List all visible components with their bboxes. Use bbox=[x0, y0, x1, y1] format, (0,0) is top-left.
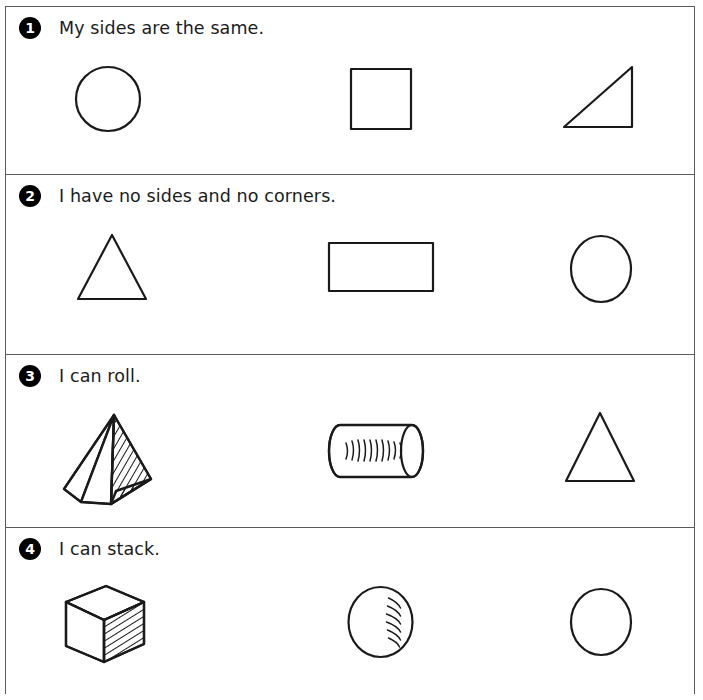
prompt-line-4: 4 I can stack. bbox=[19, 536, 160, 562]
shape-choice-2-3[interactable] bbox=[501, 219, 701, 354]
prompt-line-1: 1 My sides are the same. bbox=[19, 15, 264, 41]
pyramid-icon bbox=[54, 407, 164, 512]
shape-choice-3-3[interactable] bbox=[501, 399, 701, 527]
prompt-line-2: 2 I have no sides and no corners. bbox=[19, 183, 336, 209]
question-row-2[interactable]: 2 I have no sides and no corners. bbox=[6, 174, 694, 354]
shape-choices-2 bbox=[6, 219, 694, 354]
question-number-badge-2: 2 bbox=[19, 185, 41, 207]
shape-choice-2-1[interactable] bbox=[36, 219, 246, 354]
prompt-text-2: I have no sides and no corners. bbox=[59, 186, 336, 206]
shape-choice-4-1[interactable] bbox=[36, 572, 246, 695]
worksheet-frame: 1 My sides are the same. bbox=[5, 6, 695, 694]
shape-choice-4-2[interactable] bbox=[281, 572, 481, 695]
right-triangle-icon bbox=[556, 59, 646, 139]
shape-choice-3-1[interactable] bbox=[36, 399, 246, 527]
shape-choices-3 bbox=[6, 399, 694, 527]
question-row-1[interactable]: 1 My sides are the same. bbox=[6, 7, 694, 174]
shape-choice-4-3[interactable] bbox=[501, 572, 701, 695]
circle-icon bbox=[68, 59, 148, 139]
square-icon bbox=[341, 59, 421, 139]
shape-choice-3-2[interactable] bbox=[281, 399, 481, 527]
shape-choices-4 bbox=[6, 572, 694, 695]
prompt-text-3: I can roll. bbox=[59, 366, 141, 386]
worksheet-page: 1 My sides are the same. bbox=[0, 0, 703, 700]
triangle-icon bbox=[556, 407, 646, 492]
question-number-badge-4: 4 bbox=[19, 538, 41, 560]
question-number-badge-3: 3 bbox=[19, 365, 41, 387]
question-row-4[interactable]: 4 I can stack. bbox=[6, 527, 694, 695]
shape-choice-1-1[interactable] bbox=[36, 51, 246, 174]
cube-icon bbox=[54, 580, 154, 670]
shape-choice-1-3[interactable] bbox=[501, 51, 701, 174]
prompt-text-1: My sides are the same. bbox=[59, 18, 264, 38]
question-row-3[interactable]: 3 I can roll. bbox=[6, 354, 694, 527]
circle-icon bbox=[561, 227, 641, 312]
cylinder-icon bbox=[326, 407, 436, 487]
prompt-text-4: I can stack. bbox=[59, 539, 160, 559]
triangle-icon bbox=[68, 227, 158, 312]
shape-choice-1-2[interactable] bbox=[281, 51, 481, 174]
shape-choices-1 bbox=[6, 51, 694, 174]
shape-choice-2-2[interactable] bbox=[281, 219, 481, 354]
sphere-icon bbox=[339, 580, 424, 665]
question-number-badge-1: 1 bbox=[19, 17, 41, 39]
circle-icon bbox=[561, 580, 641, 665]
prompt-line-3: 3 I can roll. bbox=[19, 363, 141, 389]
rectangle-icon bbox=[321, 227, 441, 307]
